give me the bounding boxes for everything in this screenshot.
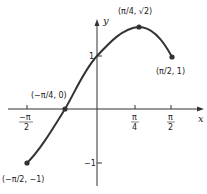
label-point-peak: (π/4, √2) — [118, 7, 152, 16]
tick-label-pi-2-num: π — [168, 113, 173, 122]
tick-label-pi-4-den: 4 — [132, 123, 137, 132]
label-point-start: (−π/2, −1) — [2, 175, 44, 184]
tick-label-neg-pi-2-num: −π — [19, 113, 31, 122]
point-start — [24, 160, 29, 165]
x-axis-label: x — [198, 113, 204, 124]
label-point-zero: (−π/4, 0) — [31, 91, 67, 100]
y-axis-label: y — [102, 15, 109, 26]
tick-label-yneg1: −1 — [84, 159, 96, 168]
point-zero — [62, 106, 67, 111]
y-axis-arrow-icon — [95, 19, 100, 26]
point-peak — [136, 24, 141, 29]
point-end — [169, 54, 174, 59]
tick-label-pi-4-num: π — [132, 113, 137, 122]
x-axis-arrow-icon — [197, 107, 204, 112]
label-point-end: (π/2, 1) — [156, 67, 185, 76]
tick-label-neg-pi-2-den: 2 — [24, 123, 29, 132]
function-graph: y x −π 2 π 4 π 2 1 −1 (−π/2, −1) (−π/4, … — [0, 0, 207, 194]
tick-label-pi-2-den: 2 — [168, 123, 173, 132]
